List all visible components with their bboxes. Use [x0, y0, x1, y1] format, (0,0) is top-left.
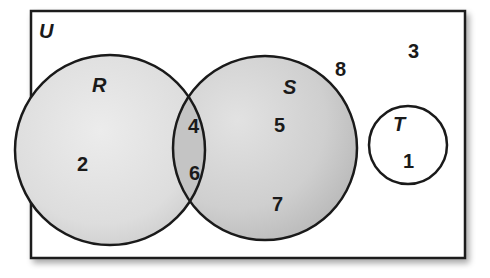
set-t-label: T: [393, 113, 407, 135]
element-r-and-s-6: 6: [189, 162, 200, 184]
set-r-label: R: [92, 74, 107, 96]
set-s-label: S: [283, 76, 297, 98]
venn-diagram: U R S T 2 4 6 5 7 8 3 1: [0, 0, 490, 278]
set-t-circle: [369, 106, 447, 184]
element-s-only-5: 5: [274, 114, 285, 136]
element-s-only-7: 7: [272, 193, 283, 215]
universe-label: U: [39, 20, 54, 42]
element-r-and-s-4: 4: [188, 115, 200, 137]
element-outside-3: 3: [408, 40, 419, 62]
element-outside-8: 8: [335, 58, 346, 80]
element-r-only: 2: [77, 153, 88, 175]
element-t-only: 1: [403, 150, 414, 172]
